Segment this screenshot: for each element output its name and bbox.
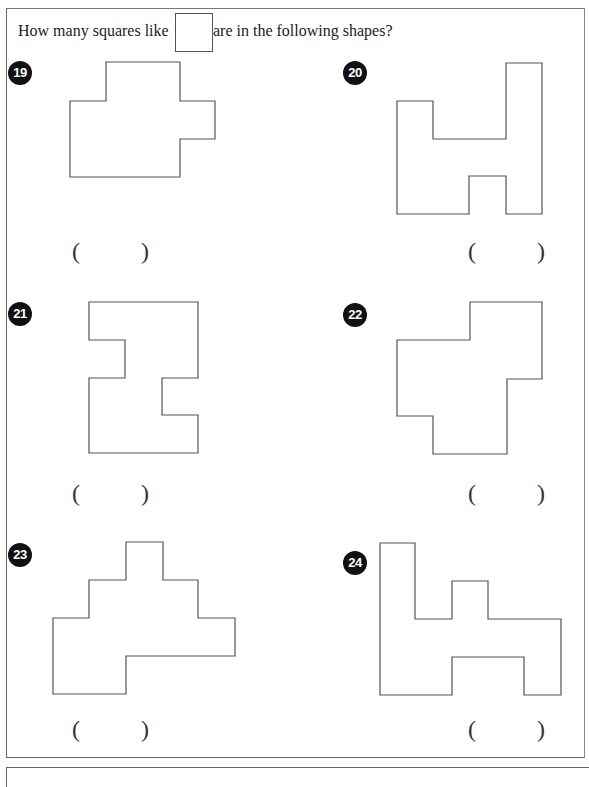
answer-21-open: ( bbox=[72, 480, 80, 507]
shape-21 bbox=[89, 302, 198, 453]
answer-22-close: ) bbox=[537, 480, 545, 507]
shape-22 bbox=[397, 302, 542, 454]
shape-24 bbox=[380, 543, 561, 695]
answer-19-close: ) bbox=[141, 238, 149, 265]
shape-20 bbox=[397, 63, 542, 214]
answer-22-open: ( bbox=[468, 480, 476, 507]
answer-20-close: ) bbox=[537, 238, 545, 265]
answer-20-open: ( bbox=[468, 238, 476, 265]
answer-21-close: ) bbox=[141, 480, 149, 507]
answer-23-close: ) bbox=[141, 716, 149, 743]
answer-24-open: ( bbox=[468, 716, 476, 743]
shape-23 bbox=[53, 542, 235, 694]
answer-23-open: ( bbox=[72, 716, 80, 743]
answer-24-close: ) bbox=[537, 716, 545, 743]
answer-19-open: ( bbox=[72, 238, 80, 265]
shape-19 bbox=[70, 62, 215, 177]
